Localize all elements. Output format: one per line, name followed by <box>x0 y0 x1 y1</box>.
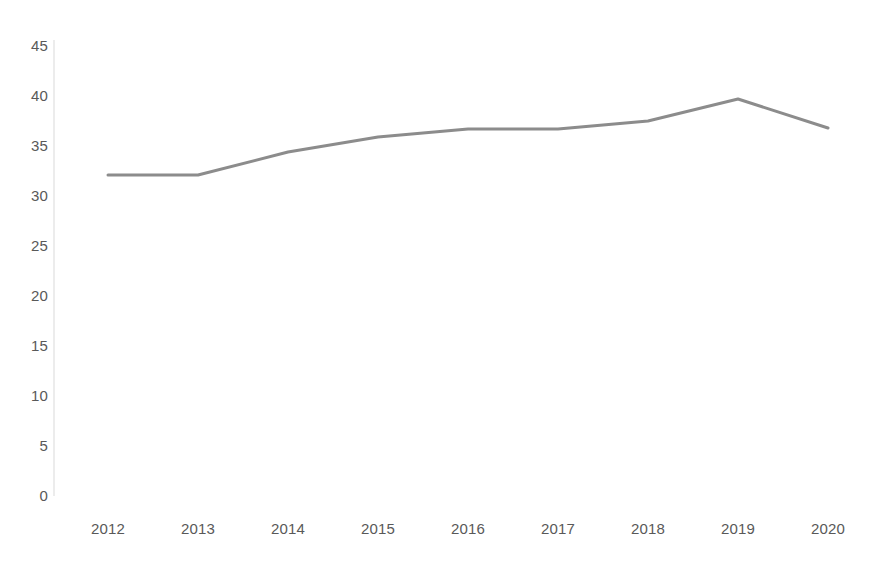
x-tick-label: 2012 <box>91 521 125 536</box>
x-axis: 201220132014201520162017201820192020 <box>0 0 879 566</box>
x-tick-label: 2016 <box>451 521 485 536</box>
x-tick-label: 2019 <box>721 521 755 536</box>
x-tick-label: 2015 <box>361 521 395 536</box>
x-tick-label: 2014 <box>271 521 305 536</box>
x-tick-label: 2017 <box>541 521 575 536</box>
x-tick-label: 2018 <box>631 521 665 536</box>
x-tick-label: 2020 <box>811 521 845 536</box>
x-tick-label: 2013 <box>181 521 215 536</box>
line-chart: 454035302520151050 201220132014201520162… <box>0 0 879 566</box>
